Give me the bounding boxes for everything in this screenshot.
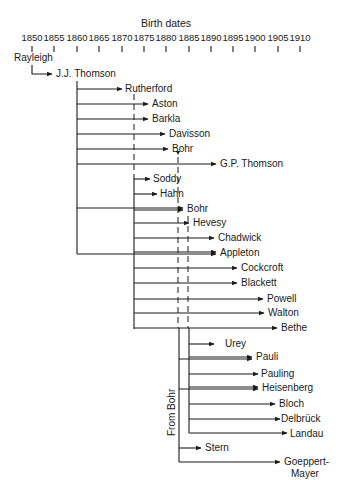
node-bloch: Bloch	[279, 398, 304, 409]
tick-label: 1905	[267, 32, 288, 43]
tick-label: 1855	[43, 32, 64, 43]
node-appleton: Appleton	[220, 247, 259, 258]
node-cockcroft: Cockcroft	[241, 262, 283, 273]
node-barkla: Barkla	[152, 113, 181, 124]
node-rayleigh: Rayleigh	[14, 52, 53, 63]
node-walton: Walton	[268, 307, 299, 318]
tick-label: 1860	[66, 32, 87, 43]
node-jj-thomson: J.J. Thomson	[56, 68, 116, 79]
node-heisenberg: Heisenberg	[262, 382, 313, 393]
node-goeppert-mayer: Goeppert-	[284, 456, 329, 467]
tick-label: 1885	[178, 32, 199, 43]
tick-label: 1850	[21, 32, 42, 43]
axis-title: Birth dates	[141, 17, 191, 29]
node-bohr-1: Bohr	[172, 143, 194, 154]
node-pauli: Pauli	[256, 351, 278, 362]
tick-label: 1890	[200, 32, 221, 43]
axis-ticks: 1850 1855 1860 1865 1870 1875 1880 1885 …	[21, 32, 310, 52]
node-soddy: Soddy	[153, 173, 181, 184]
node-hahn: Hahn	[160, 188, 184, 199]
node-gp-thomson: G.P. Thomson	[220, 158, 283, 169]
node-urey: Urey	[225, 338, 246, 349]
node-goeppert-mayer-line2: Mayer	[291, 468, 319, 479]
node-bohr-2: Bohr	[187, 203, 209, 214]
tick-label: 1875	[133, 32, 154, 43]
node-blackett: Blackett	[241, 277, 277, 288]
from-bohr-label: From Bohr	[166, 388, 177, 436]
node-pauling: Pauling	[261, 368, 294, 379]
node-chadwick: Chadwick	[218, 232, 262, 243]
node-davisson: Davisson	[169, 128, 210, 139]
node-hevesy: Hevesy	[193, 217, 226, 228]
node-stern: Stern	[205, 442, 229, 453]
node-landau: Landau	[290, 428, 323, 439]
node-rutherford: Rutherford	[125, 83, 172, 94]
tick-label: 1880	[155, 32, 176, 43]
node-delbruck: Delbrück	[281, 413, 321, 424]
genealogy-diagram: Birth dates 1850 1855 1860 1865 1870 187…	[0, 0, 346, 495]
tick-label: 1900	[244, 32, 265, 43]
tick-label: 1895	[222, 32, 243, 43]
node-bethe: Bethe	[281, 322, 308, 333]
tick-label: 1865	[88, 32, 109, 43]
tick-label: 1870	[111, 32, 132, 43]
node-aston: Aston	[152, 98, 178, 109]
node-powell: Powell	[267, 293, 296, 304]
tick-label: 1910	[289, 32, 310, 43]
